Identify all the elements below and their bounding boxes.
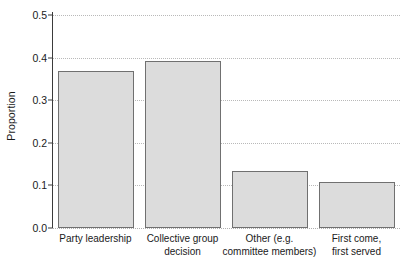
bar	[58, 71, 134, 228]
bar-chart: Proportion 0.00.10.20.30.40.5 Party lead…	[0, 0, 411, 268]
x-axis-category-label-line: Collective group	[132, 233, 233, 246]
x-axis-category-label-line: Other (e.g.	[219, 233, 320, 246]
x-axis-category-label: First come,first served	[306, 233, 407, 258]
x-axis-category-label-line: Party leadership	[45, 233, 146, 246]
y-axis-tick-label: 0.1	[32, 179, 47, 191]
x-axis-category-label-line: First come,	[306, 233, 407, 246]
y-axis-tick-label: 0.4	[32, 52, 47, 64]
x-axis-category-label-line: first served	[306, 246, 407, 259]
x-axis-category-label: Collective groupdecision	[132, 233, 233, 258]
x-axis-category-label-line: committee members)	[219, 246, 320, 259]
x-axis-category-label-line: decision	[132, 246, 233, 259]
gridline	[52, 228, 400, 229]
bar	[145, 61, 221, 228]
x-axis-category-label: Other (e.g.committee members)	[219, 233, 320, 258]
bar	[232, 171, 308, 228]
y-axis-tick-label: 0.3	[32, 94, 47, 106]
y-axis-tick-labels: 0.00.10.20.30.40.5	[20, 0, 52, 268]
x-axis-category-labels: Party leadershipCollective groupdecision…	[52, 233, 400, 268]
x-axis-category-label: Party leadership	[45, 233, 146, 246]
bar-series	[52, 15, 400, 228]
y-axis-tick-label: 0.5	[32, 9, 47, 21]
y-axis-title-text: Proportion	[5, 91, 17, 140]
bar	[319, 182, 395, 228]
plot-area	[52, 15, 400, 228]
y-axis-tick-label: 0.2	[32, 137, 47, 149]
y-axis-title: Proportion	[0, 0, 22, 232]
